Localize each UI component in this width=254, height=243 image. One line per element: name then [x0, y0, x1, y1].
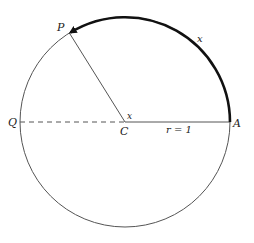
- unit-circle-diagram: P Q C A x x r = 1: [0, 0, 254, 243]
- label-radius: r = 1: [166, 124, 192, 135]
- label-C: C: [120, 125, 129, 138]
- label-arc-x: x: [197, 33, 203, 44]
- radius-CP: [69, 33, 125, 122]
- label-angle-x: x: [127, 111, 132, 121]
- label-A: A: [232, 117, 241, 130]
- label-Q: Q: [8, 116, 17, 129]
- label-P: P: [56, 21, 65, 34]
- arc-AP: [71, 17, 231, 122]
